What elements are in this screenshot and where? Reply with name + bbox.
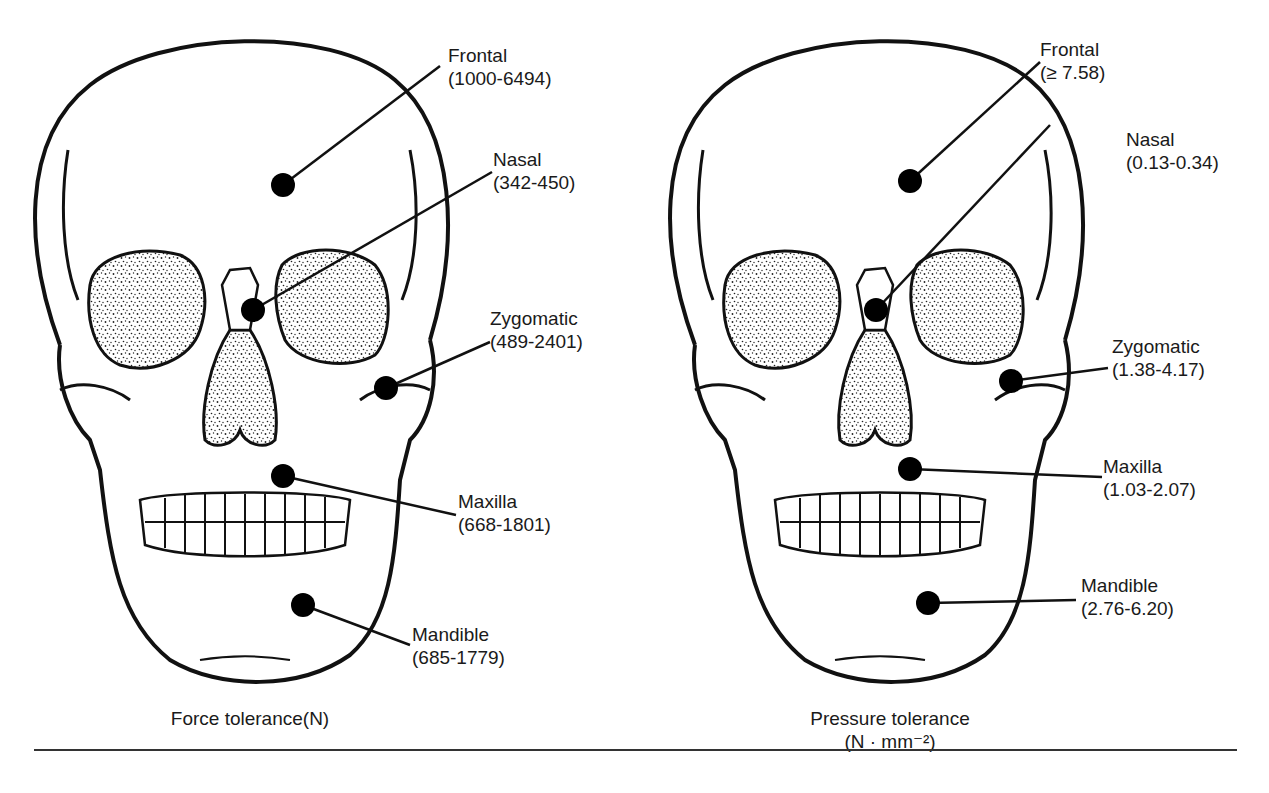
label-name: Mandible [412, 623, 505, 646]
caption-line-1: Force tolerance(N) [150, 707, 350, 730]
frontal-dot [898, 169, 922, 193]
label-range: (2.76-6.20) [1081, 597, 1174, 620]
label-pressure-frontal: Frontal (≥ 7.58) [1040, 38, 1105, 84]
label-force-zygomatic: Zygomatic (489-2401) [490, 307, 583, 353]
nasal-dot [241, 298, 265, 322]
label-name: Zygomatic [490, 307, 583, 330]
label-pressure-zygomatic: Zygomatic (1.38-4.17) [1112, 335, 1205, 381]
label-force-frontal: Frontal (1000-6494) [448, 44, 552, 90]
label-range: (1.03-2.07) [1103, 478, 1196, 501]
caption-pressure: Pressure tolerance (N · mm⁻²) [770, 707, 1010, 753]
label-force-nasal: Nasal (342-450) [493, 148, 575, 194]
label-range: (1000-6494) [448, 67, 552, 90]
zygomatic-dot [374, 376, 398, 400]
caption-force: Force tolerance(N) [150, 707, 350, 730]
mandible-dot [916, 591, 940, 615]
label-range: (489-2401) [490, 330, 583, 353]
label-name: Zygomatic [1112, 335, 1205, 358]
maxilla-dot [898, 457, 922, 481]
label-name: Mandible [1081, 574, 1174, 597]
zygomatic-dot [999, 369, 1023, 393]
label-range: (1.38-4.17) [1112, 358, 1205, 381]
label-range: (342-450) [493, 171, 575, 194]
label-range: (685-1779) [412, 646, 505, 669]
label-name: Maxilla [458, 490, 551, 513]
label-range: (668-1801) [458, 513, 551, 536]
label-pressure-mandible: Mandible (2.76-6.20) [1081, 574, 1174, 620]
label-name: Nasal [1126, 128, 1219, 151]
maxilla-dot [271, 464, 295, 488]
label-force-maxilla: Maxilla (668-1801) [458, 490, 551, 536]
label-name: Maxilla [1103, 455, 1196, 478]
caption-line-1: Pressure tolerance [770, 707, 1010, 730]
label-pressure-nasal: Nasal (0.13-0.34) [1126, 128, 1219, 174]
label-name: Nasal [493, 148, 575, 171]
mandible-dot [291, 593, 315, 617]
nasal-dot [864, 298, 888, 322]
label-range: (≥ 7.58) [1040, 61, 1105, 84]
label-pressure-maxilla: Maxilla (1.03-2.07) [1103, 455, 1196, 501]
bottom-rule [34, 749, 1237, 751]
label-range: (0.13-0.34) [1126, 151, 1219, 174]
label-name: Frontal [448, 44, 552, 67]
label-force-mandible: Mandible (685-1779) [412, 623, 505, 669]
frontal-dot [271, 173, 295, 197]
label-name: Frontal [1040, 38, 1105, 61]
